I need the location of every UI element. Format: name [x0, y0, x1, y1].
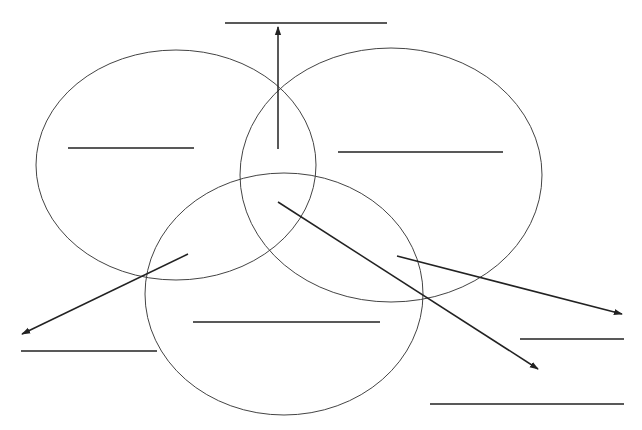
venn-circles	[36, 48, 542, 415]
answer-lines	[21, 23, 624, 404]
venn-circle-left	[36, 50, 316, 280]
venn-diagram	[0, 0, 642, 430]
venn-circle-bottom	[145, 173, 423, 415]
arrow-to-outer-left	[22, 254, 188, 334]
arrow-to-outer-right-upper	[397, 256, 622, 314]
venn-circle-right	[240, 48, 542, 302]
pointer-arrows	[22, 27, 622, 369]
